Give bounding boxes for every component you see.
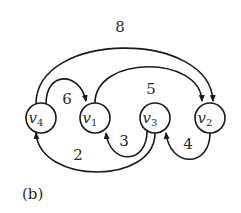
- edge-weight-6: 6: [62, 90, 72, 108]
- edge-weight-2: 2: [73, 146, 83, 164]
- edge-weight-4: 4: [183, 135, 193, 153]
- node-v1: v1: [80, 103, 110, 133]
- node-subscript: 2: [206, 117, 212, 128]
- node-subscript: 4: [37, 117, 43, 128]
- node-subscript: 3: [151, 117, 157, 128]
- node-v3: v3: [140, 103, 170, 133]
- node-v4: v4: [26, 103, 56, 133]
- directed-graph: 8 6 5 3 4 2 v4 v1 v3 v2 (b): [0, 0, 241, 213]
- edge-weight-8: 8: [115, 18, 125, 36]
- node-subscript: 1: [91, 117, 97, 128]
- edge-v3-v4: [36, 133, 155, 172]
- edge-weight-3: 3: [119, 132, 129, 150]
- edge-weight-5: 5: [146, 80, 156, 98]
- node-v2: v2: [195, 103, 225, 133]
- figure-caption: (b): [22, 185, 43, 203]
